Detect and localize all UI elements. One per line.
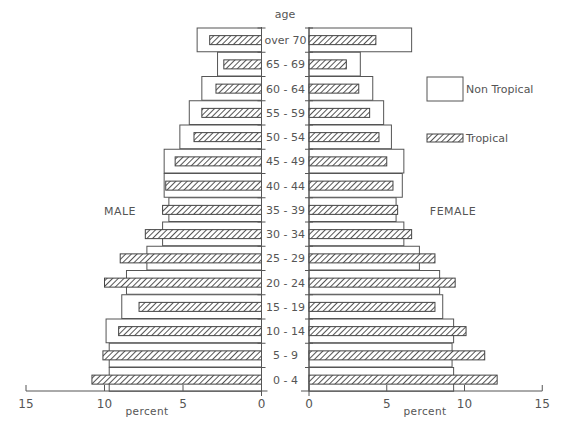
x-tick-label: 0: [305, 397, 313, 411]
legend-label-tropical: Tropical: [465, 132, 508, 145]
female-tropical-bar: [309, 84, 359, 93]
age-group-label: 25 - 29: [266, 252, 305, 265]
female-label: FEMALE: [430, 205, 476, 218]
male-tropical-bar: [202, 108, 262, 117]
female-tropical-bar: [309, 108, 370, 117]
age-group-label: 50 - 54: [266, 131, 305, 144]
legend: Non Tropical Tropical: [427, 77, 533, 145]
population-pyramid-chart: age over 7065 - 6960 - 6455 - 5950 - 544…: [0, 0, 565, 428]
age-group-label: 5 - 9: [273, 349, 298, 362]
female-tropical-bar: [309, 205, 398, 214]
female-tropical-bar: [309, 181, 393, 190]
male-tropical-bar: [145, 230, 261, 239]
age-labels: over 7065 - 6960 - 6455 - 5950 - 5445 - …: [258, 28, 314, 387]
male-tropical-bar: [175, 157, 261, 166]
age-group-label: 15 - 19: [266, 301, 305, 314]
female-tropical-bar: [309, 133, 379, 142]
female-tropical-bar: [309, 36, 376, 45]
male-tropical-bar: [194, 133, 262, 142]
age-group-label: over 70: [264, 34, 306, 47]
female-x-axis-title: percent: [403, 405, 446, 417]
legend-label-non-tropical: Non Tropical: [466, 83, 533, 96]
age-group-label: 40 - 44: [266, 180, 305, 193]
x-tick-label: 15: [18, 397, 33, 411]
age-group-label: 30 - 34: [266, 228, 305, 241]
male-tropical-bar: [92, 375, 262, 384]
age-group-label: 20 - 24: [266, 277, 305, 290]
age-group-label: 35 - 39: [266, 204, 305, 217]
male-tropical-bar: [210, 36, 262, 45]
male-label: MALE: [104, 205, 136, 218]
x-tick-label: 5: [383, 397, 391, 411]
female-tropical-bar: [309, 278, 455, 287]
female-tropical-bar: [309, 157, 387, 166]
age-group-label: 10 - 14: [266, 325, 305, 338]
male-tropical-bar: [166, 181, 262, 190]
male-tropical-bar: [120, 254, 261, 263]
female-tropical-bar: [309, 230, 412, 239]
age-group-label: 55 - 59: [266, 107, 305, 120]
legend-swatch-non-tropical: [427, 77, 463, 101]
female-tropical-bar: [309, 60, 346, 69]
x-tick-label: 5: [179, 397, 187, 411]
age-group-label: 45 - 49: [266, 155, 305, 168]
male-tropical-bar: [139, 302, 261, 311]
male-tropical-bar: [216, 84, 262, 93]
age-axis-title: age: [275, 8, 296, 21]
age-group-label: 0 - 4: [273, 374, 298, 387]
legend-swatch-tropical: [427, 134, 463, 142]
x-tick-label: 10: [97, 397, 112, 411]
female-tropical-bar: [309, 302, 435, 311]
age-group-label: 65 - 69: [266, 58, 305, 71]
male-x-axis-title: percent: [125, 405, 168, 417]
male-tropical-bar: [163, 205, 262, 214]
male-tropical-bar: [103, 351, 262, 360]
female-tropical-bar: [309, 254, 435, 263]
male-tropical-bar: [105, 278, 262, 287]
x-tick-label: 0: [258, 397, 266, 411]
female-tropical-bar: [309, 327, 466, 336]
age-group-label: 60 - 64: [266, 83, 305, 96]
female-tropical-bar: [309, 351, 485, 360]
male-tropical-bar: [119, 327, 262, 336]
female-tropical-bar: [309, 375, 497, 384]
male-tropical-bar: [224, 60, 262, 69]
x-tick-label: 15: [535, 397, 550, 411]
x-tick-label: 10: [457, 397, 472, 411]
